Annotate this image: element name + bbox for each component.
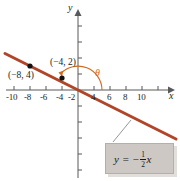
x-tick-label-6: 6 <box>107 93 111 102</box>
equation-text: y = − 1 2 x <box>114 151 151 168</box>
x-tick-label-neg6: -6 <box>40 93 47 102</box>
x-axis-label: x <box>169 91 173 101</box>
equation-variable: x <box>147 154 152 165</box>
x-tick-label-neg2: -2 <box>68 93 75 102</box>
callout-leader-line <box>113 120 131 142</box>
y-axis-label: y <box>68 3 72 13</box>
x-tick-label-8: 8 <box>123 93 127 102</box>
x-tick-label-neg8: -8 <box>24 93 31 102</box>
equation-numerator: 1 <box>140 151 146 159</box>
equation-lhs: y <box>114 154 119 165</box>
x-tick-label-10: 10 <box>137 93 146 102</box>
graph-figure: x y -10 -8 -6 -4 -2 4 6 8 10 (−8, 4) (−4… <box>0 0 180 181</box>
x-tick-label-neg10: -10 <box>6 93 17 102</box>
y-axis <box>75 9 83 178</box>
x-tick-label-neg4: -4 <box>56 93 63 102</box>
plot-point <box>59 75 64 80</box>
equation-sign: − <box>132 154 139 165</box>
equation-fraction: 1 2 <box>140 151 146 168</box>
equation-callout-box: y = − 1 2 x <box>105 143 174 174</box>
theta-label: θ <box>95 68 100 78</box>
plot-point <box>27 63 32 68</box>
equation-equals: = <box>122 154 129 165</box>
equation-denominator: 2 <box>140 161 146 169</box>
point-label-neg4-2: (−4, 2) <box>50 58 76 68</box>
point-label-neg8-4: (−8, 4) <box>8 71 34 81</box>
x-tick-label-4: 4 <box>91 93 95 102</box>
